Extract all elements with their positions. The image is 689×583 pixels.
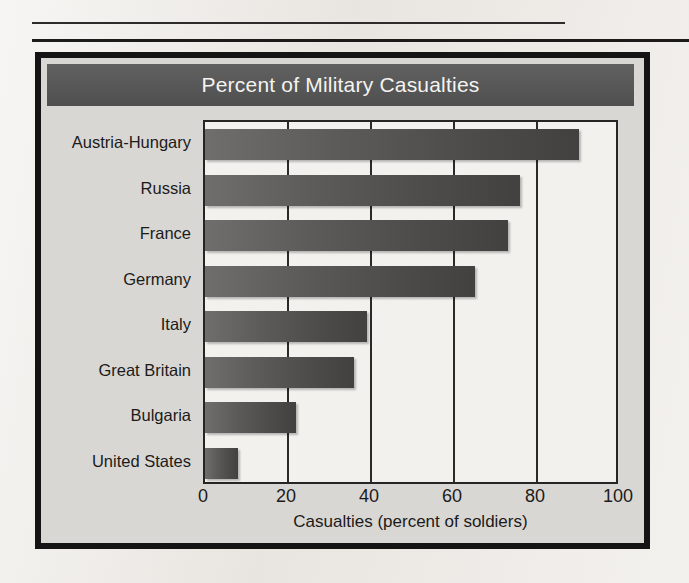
category-label-great-britain: Great Britain xyxy=(98,348,191,394)
bar-united-states xyxy=(205,448,238,479)
x-axis-ticks: 020406080100 xyxy=(203,486,618,512)
category-label-united-states: United States xyxy=(92,439,191,485)
bar-bulgaria xyxy=(205,402,296,433)
category-label-austria-hungary: Austria-Hungary xyxy=(72,120,191,166)
bar-row xyxy=(205,395,616,441)
plot-area xyxy=(203,120,618,484)
bar-germany xyxy=(205,266,475,297)
category-label-bulgaria: Bulgaria xyxy=(130,393,191,439)
bar-france xyxy=(205,220,508,251)
bar-row xyxy=(205,350,616,396)
bars xyxy=(205,122,616,482)
bar-italy xyxy=(205,311,367,342)
chart-title: Percent of Military Casualties xyxy=(202,73,480,97)
bar-row xyxy=(205,122,616,168)
top-rule-long xyxy=(32,39,689,42)
bar-austria-hungary xyxy=(205,129,579,160)
chart-body: Austria-HungaryRussiaFranceGermanyItalyG… xyxy=(47,112,638,543)
x-tick-label-100: 100 xyxy=(603,486,633,507)
bar-row xyxy=(205,259,616,305)
x-tick-label-0: 0 xyxy=(198,486,208,507)
x-tick-label-80: 80 xyxy=(525,486,545,507)
category-label-germany: Germany xyxy=(123,257,191,303)
x-tick-label-20: 20 xyxy=(276,486,296,507)
bar-russia xyxy=(205,175,520,206)
x-tick-label-60: 60 xyxy=(442,486,462,507)
category-label-russia: Russia xyxy=(141,166,191,212)
category-label-italy: Italy xyxy=(161,302,191,348)
bar-great-britain xyxy=(205,357,354,388)
bar-row xyxy=(205,441,616,487)
chart-title-bar: Percent of Military Casualties xyxy=(47,64,634,106)
x-tick-label-40: 40 xyxy=(359,486,379,507)
category-label-france: France xyxy=(140,211,191,257)
top-rule-short xyxy=(32,22,565,24)
x-axis-title: Casualties (percent of soldiers) xyxy=(203,512,618,532)
bar-row xyxy=(205,304,616,350)
chart-figure-panel: Percent of Military Casualties Austria-H… xyxy=(35,52,650,549)
bar-row xyxy=(205,168,616,214)
bar-row xyxy=(205,213,616,259)
category-axis-labels: Austria-HungaryRussiaFranceGermanyItalyG… xyxy=(47,120,197,484)
